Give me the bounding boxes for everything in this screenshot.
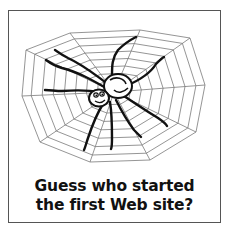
spider-pupil: [95, 94, 97, 96]
spider-leg: [112, 37, 136, 76]
caption-line-2: the first Web site?: [8, 196, 221, 215]
spider-leg: [110, 102, 112, 149]
spider-pupil: [101, 93, 103, 95]
caption-line-1: Guess who started: [8, 177, 221, 196]
spider-head: [89, 90, 109, 107]
